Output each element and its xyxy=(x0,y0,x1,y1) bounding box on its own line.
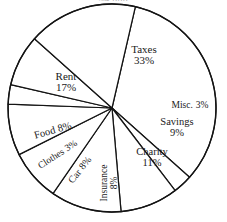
pie-chart-figure: $4,000 Taxes33%Misc.3%Savings9%Charity11… xyxy=(0,0,227,222)
pie-slice-group xyxy=(8,4,216,212)
pie-chart-svg xyxy=(0,0,227,222)
